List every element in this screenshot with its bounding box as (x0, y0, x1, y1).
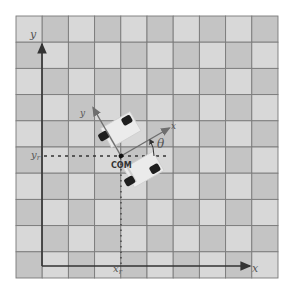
grid-cell (199, 147, 225, 173)
grid-cell (95, 199, 121, 225)
grid-cell (16, 173, 42, 199)
grid-cell (199, 252, 225, 278)
grid-cell (147, 199, 173, 225)
grid-cell (199, 199, 225, 225)
x-axis-label: x (252, 262, 259, 275)
grid-cell (226, 226, 252, 252)
grid-cell (121, 252, 147, 278)
grid-cell (68, 173, 94, 199)
grid-cell (252, 226, 278, 252)
grid-cell (226, 199, 252, 225)
robot-y-axis-label: y (79, 108, 86, 118)
grid-cell (252, 95, 278, 121)
grid-cell (68, 252, 94, 278)
grid-cell (252, 16, 278, 42)
grid-cell (173, 121, 199, 147)
grid-cell (16, 121, 42, 147)
grid-cell (147, 252, 173, 278)
grid-cell (147, 226, 173, 252)
grid-cell (42, 16, 68, 42)
grid-cell (42, 42, 68, 68)
grid-cell (173, 147, 199, 173)
grid-cell (121, 16, 147, 42)
grid-cell (147, 95, 173, 121)
grid-cell (173, 42, 199, 68)
grid-cell (16, 226, 42, 252)
grid-cell (121, 199, 147, 225)
grid-cell (95, 226, 121, 252)
grid-cell (42, 226, 68, 252)
grid-cell (68, 68, 94, 94)
grid-cell (42, 68, 68, 94)
grid-cell (199, 173, 225, 199)
grid-cell (252, 42, 278, 68)
grid-cell (252, 173, 278, 199)
grid-cell (68, 199, 94, 225)
grid-cell (173, 252, 199, 278)
grid-cell (68, 42, 94, 68)
grid-cell (199, 68, 225, 94)
grid-cell (252, 199, 278, 225)
grid-cell (226, 147, 252, 173)
grid-cell (199, 95, 225, 121)
grid-cell (226, 252, 252, 278)
robot-pose-diagram: y x yr xr x y θ COM (0, 0, 292, 297)
grid-cell (199, 16, 225, 42)
grid-cell (173, 226, 199, 252)
grid-cell (42, 252, 68, 278)
grid-cell (226, 42, 252, 68)
checkerboard-grid (16, 16, 278, 278)
grid-cell (68, 16, 94, 42)
grid-cell (226, 68, 252, 94)
grid-cell (42, 95, 68, 121)
grid-cell (252, 121, 278, 147)
grid-cell (147, 68, 173, 94)
grid-cell (16, 42, 42, 68)
grid-cell (68, 147, 94, 173)
grid-cell (42, 173, 68, 199)
grid-cell (226, 173, 252, 199)
grid-cell (173, 16, 199, 42)
grid-cell (147, 16, 173, 42)
grid-cell (121, 42, 147, 68)
grid-cell (173, 173, 199, 199)
grid-cell (173, 68, 199, 94)
theta-label: θ (157, 137, 165, 151)
grid-cell (199, 121, 225, 147)
com-label: COM (111, 161, 132, 170)
grid-cell (95, 16, 121, 42)
grid-cell (121, 68, 147, 94)
grid-cell (95, 68, 121, 94)
grid-cell (16, 95, 42, 121)
grid-cell (226, 95, 252, 121)
grid-cell (199, 226, 225, 252)
grid-cell (199, 42, 225, 68)
grid-cell (252, 147, 278, 173)
grid-cell (252, 68, 278, 94)
robot-x-axis-label: x (171, 121, 176, 131)
grid-cell (226, 16, 252, 42)
grid-cell (16, 199, 42, 225)
grid-cell (42, 147, 68, 173)
grid-cell (16, 68, 42, 94)
grid-cell (68, 121, 94, 147)
grid-cell (16, 252, 42, 278)
grid-cell (226, 121, 252, 147)
grid-cell (173, 95, 199, 121)
grid-cell (121, 226, 147, 252)
grid-cell (42, 199, 68, 225)
grid-cell (68, 226, 94, 252)
y-axis-label: y (29, 28, 37, 41)
grid-cell (95, 173, 121, 199)
grid-cell (147, 42, 173, 68)
grid-cell (42, 121, 68, 147)
grid-cell (173, 199, 199, 225)
grid-cell (95, 42, 121, 68)
